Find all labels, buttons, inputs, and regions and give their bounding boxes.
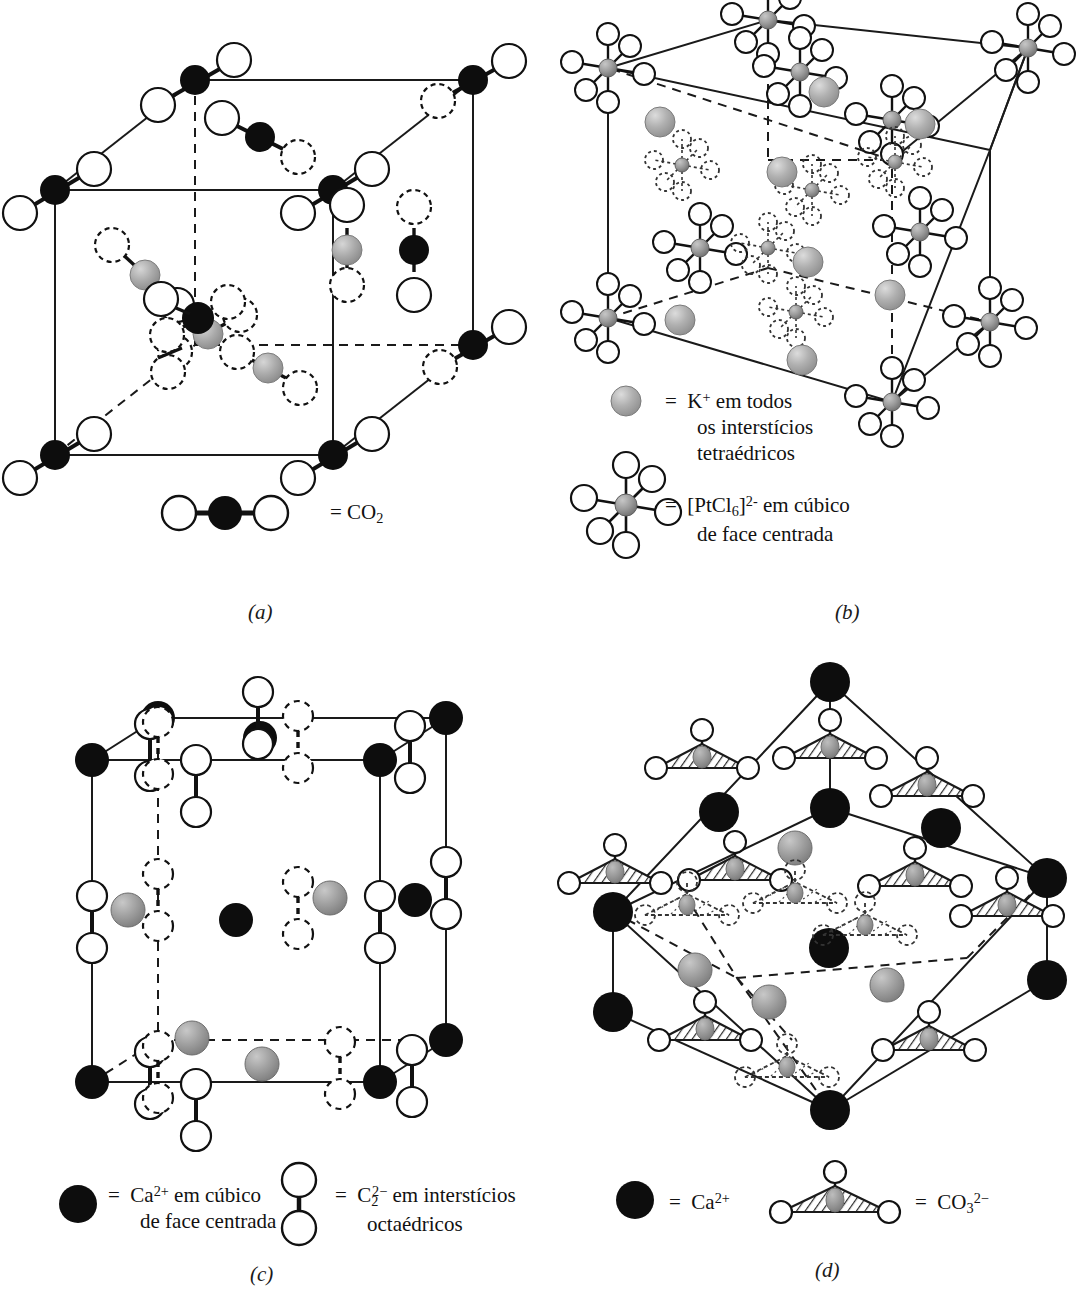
c2-dumbbell-hidden [143, 707, 173, 789]
co3-group [858, 837, 972, 897]
legend-d: = Ca2+ = CO32− [547, 1160, 1087, 1240]
ca-ion [1027, 858, 1067, 898]
legend-d-co3-formula: CO32− [937, 1190, 989, 1214]
ca-ion [1027, 960, 1067, 1000]
c2-dumbbell-hidden [143, 859, 173, 941]
legend-a-formula-main: CO [347, 500, 376, 524]
c2-dumbbell-hidden [283, 867, 313, 949]
panel-c-svg [0, 660, 540, 1180]
k-ion [767, 157, 797, 187]
k-ion [793, 247, 823, 277]
panel-a-co2-structure: = CO2 (a) [0, 0, 520, 600]
panel-d-caco3-structure: = Ca2+ = CO32− (d) [547, 660, 1087, 1300]
co3-group [645, 719, 759, 779]
panel-label-b: (b) [835, 600, 860, 625]
legend-c-equals-1: = [108, 1183, 120, 1207]
co3-group [648, 991, 762, 1051]
panel-label-d: (d) [815, 1258, 840, 1283]
co2-molecule [220, 335, 317, 405]
legend-c: = Ca2+ em cúbico de face centrada = C22−… [0, 1160, 540, 1250]
c2-dumbbell-hidden [283, 701, 313, 783]
ca-ion [699, 792, 739, 832]
ca-ion-back [752, 985, 786, 1019]
co2-molecule [423, 310, 526, 384]
ptcl6-cluster [845, 357, 939, 447]
k-ion [665, 305, 695, 335]
legend-d-glyphs [547, 1160, 1087, 1240]
c2-dumbbell [365, 881, 395, 963]
legend-d-co3-entry: = CO32− [915, 1190, 989, 1217]
co2-molecule [330, 188, 364, 302]
c2-dumbbell [181, 745, 211, 827]
legend-b-ptcl6-formula: [PtCl6]2- [687, 493, 757, 517]
legend-c-ca-sphere [59, 1185, 97, 1223]
legend-c-equals-2: = [335, 1183, 347, 1207]
legend-c-c2-line2: octaédricos [367, 1211, 463, 1237]
ca-ion-back [245, 1047, 279, 1081]
ca-ion [809, 928, 849, 968]
co3-group [678, 831, 792, 891]
ca-ion-back [778, 831, 812, 865]
c2-dumbbell [77, 881, 107, 963]
ca-ion-back [870, 968, 904, 1002]
co3-group [558, 834, 672, 894]
legend-d-co3-glyph [770, 1161, 900, 1223]
c2-dumbbell [397, 1035, 427, 1117]
co3-group [872, 1001, 986, 1061]
ca-ion [810, 662, 850, 702]
legend-b-k-formula: K+ [687, 389, 710, 413]
legend-b-equals-2: = [665, 493, 677, 517]
ca-ion [593, 892, 633, 932]
legend-d-equals-2: = [915, 1190, 927, 1214]
legend-c-c2-entry: = C22− em interstícios octaédricos [335, 1182, 516, 1237]
k-ion [875, 280, 905, 310]
legend-b-k-sphere [611, 386, 641, 416]
k-ion [787, 345, 817, 375]
ca-ion-back [111, 893, 145, 927]
legend-d-equals-1: = [669, 1190, 681, 1214]
ptcl6-cluster [981, 3, 1075, 93]
ptcl6-cluster [561, 273, 655, 363]
legend-c-ca-entry: = Ca2+ em cúbico de face centrada [108, 1182, 276, 1235]
legend-b-ptcl6-line2: de face centrada [697, 521, 833, 547]
ca-ion [429, 701, 463, 735]
legend-a-equals: = [330, 500, 342, 524]
legend-b-k-rest: em todos [711, 389, 793, 413]
ca-ion [75, 1065, 109, 1099]
ptcl6-cluster [561, 23, 655, 113]
legend-c-c2-rest: em interstícios [387, 1183, 515, 1207]
k-ion [905, 109, 935, 139]
ca-ion [363, 1065, 397, 1099]
legend-b-k-line2: os interstícios [697, 414, 813, 440]
legend-a [155, 490, 325, 536]
ca-ion [75, 743, 109, 777]
legend-b-ptcl6-entry: = [PtCl6]2- em cúbico de face centrada [665, 492, 850, 547]
ca-ion-back [313, 881, 347, 915]
k-ion [645, 107, 675, 137]
ca-ion-back [175, 1021, 209, 1055]
ptcl6-cluster [943, 277, 1037, 367]
ca-ion [593, 992, 633, 1032]
legend-b-k-line3: tetraédricos [697, 440, 795, 466]
ca-ion [398, 883, 432, 917]
legend-b-equals-1: = [665, 389, 677, 413]
ca-ion [429, 1023, 463, 1057]
c2-dumbbell-hidden [325, 1027, 355, 1109]
legend-d-ca-formula: Ca2+ [691, 1190, 730, 1214]
c2-dumbbell [395, 711, 425, 793]
legend-a-equals-and-formula: = CO2 [330, 500, 383, 527]
legend-c-c2-formula: C22− [357, 1183, 387, 1207]
legend-a-formula-sub: 2 [376, 510, 383, 526]
ca-ion [219, 903, 253, 937]
c2-dumbbell [431, 847, 461, 929]
ca-ion [921, 808, 961, 848]
ptcl6-cluster [873, 187, 967, 277]
legend-b-ptcl6-rest: em cúbico [758, 493, 850, 517]
legend-c-ca-rest: em cúbico [169, 1183, 261, 1207]
ca-ion [810, 1090, 850, 1130]
legend-c-ca-formula: Ca2+ [130, 1183, 169, 1207]
ptcl6-cluster-hidden [645, 130, 719, 200]
k-ion [809, 77, 839, 107]
legend-a-formula: CO2 [347, 500, 383, 524]
ca-ion [363, 743, 397, 777]
